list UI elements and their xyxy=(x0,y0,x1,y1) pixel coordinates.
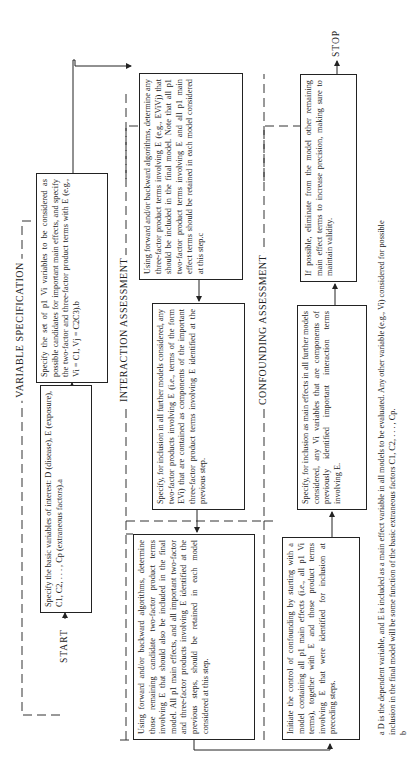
rotated-page: START STOP VARIABLE SPECIFICATION INTERA… xyxy=(0,0,415,771)
step-candidate-variables: Specify the set of p1 Vi variables to be… xyxy=(36,173,108,383)
arrow-box2-box5 xyxy=(73,60,131,173)
step-confounding-initiate: Initiate the control of confounding by s… xyxy=(282,537,360,740)
step-two-factor-inclusion: Specify, for inclusion in all further mo… xyxy=(152,303,245,510)
section-label-interaction-assessment: INTERACTION ASSESSMENT xyxy=(118,255,129,405)
step-basic-variables: Specify the basic variables of interest:… xyxy=(40,385,92,613)
start-terminal: START xyxy=(59,629,69,663)
arrow-box3-box6 xyxy=(194,740,330,750)
section-label-confounding-assessment: CONFOUNDING ASSESSMENT xyxy=(257,252,268,408)
step-main-effects-inclusion: Specify, for inclusion as main effects i… xyxy=(297,305,367,510)
step-two-factor-selection: Using forward and/or backward algorithms… xyxy=(133,534,255,740)
step-three-factor-selection: Using forward and/or backward algorithms… xyxy=(139,73,243,280)
footnote-a-line1: a D is the dependent variable, and E is … xyxy=(377,220,388,735)
section-label-variable-specification: VARIABLE SPECIFICATION xyxy=(14,259,25,401)
stop-terminal: STOP xyxy=(331,30,341,57)
step-eliminate-terms: If possible, eliminate from the model ot… xyxy=(300,74,357,282)
footnote-a-line2: inclusion in the final model will be som… xyxy=(388,408,399,735)
int-bracket-top-left xyxy=(126,126,139,179)
conf-bracket-top xyxy=(264,126,300,181)
footnote-b: b xyxy=(399,731,410,735)
